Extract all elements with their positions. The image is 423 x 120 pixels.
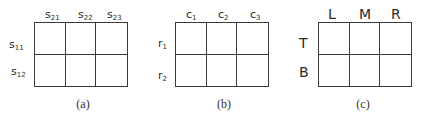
payoff-grid-c [318, 22, 412, 87]
col-label-2: M [359, 7, 371, 21]
grid-cell [380, 23, 411, 55]
col-label-3: R [391, 7, 401, 21]
grid-cell [350, 55, 381, 87]
caption-c: (c) [356, 97, 369, 112]
grid-cell [380, 55, 411, 87]
row-label-2: B [299, 65, 309, 79]
grid-cell [319, 23, 350, 55]
grid-cell [350, 23, 381, 55]
panel-c: L M R T B (c) [0, 0, 423, 120]
grid-cell [319, 55, 350, 87]
row-label-1: T [299, 36, 308, 50]
col-label-1: L [328, 7, 336, 21]
